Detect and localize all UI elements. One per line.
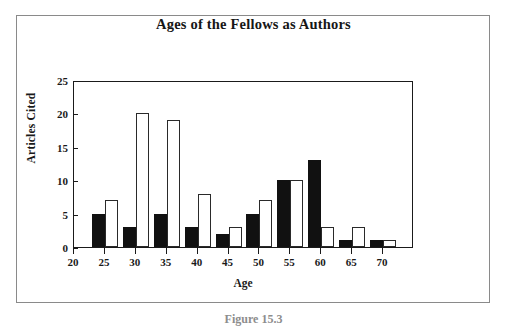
x-tick-label: 55 (284, 256, 295, 268)
y-tick-mark (73, 148, 78, 149)
x-tick-label: 20 (68, 256, 79, 268)
bar-hollow (198, 194, 211, 247)
x-tick-mark (73, 248, 74, 254)
bar-filled (370, 240, 383, 247)
bar-filled (154, 214, 167, 247)
y-tick-label: 10 (57, 175, 68, 187)
x-tick-label: 45 (222, 256, 233, 268)
bar-hollow (167, 120, 180, 247)
x-axis-title: Age (73, 277, 413, 289)
bar-hollow (105, 200, 118, 247)
y-axis-tick-labels: 0510152025 (40, 81, 68, 248)
y-tick-label: 5 (63, 209, 69, 221)
x-tick-label: 25 (98, 256, 109, 268)
y-axis-title: Articles Cited (25, 73, 37, 183)
x-tick-mark (197, 248, 198, 254)
x-tick-label: 65 (346, 256, 357, 268)
x-tick-mark (104, 248, 105, 254)
x-tick-mark (258, 248, 259, 254)
plot-area (73, 81, 413, 248)
bar-filled (308, 160, 321, 247)
y-tick-label: 20 (57, 108, 68, 120)
x-tick-label: 35 (160, 256, 171, 268)
x-tick-mark (166, 248, 167, 254)
x-tick-label: 40 (191, 256, 202, 268)
bar-hollow (352, 227, 365, 247)
y-tick-label: 15 (57, 142, 68, 154)
x-tick-label: 60 (315, 256, 326, 268)
bar-hollow (229, 227, 242, 247)
bar-filled (277, 180, 290, 247)
bar-filled (339, 240, 352, 247)
x-tick-label: 30 (129, 256, 140, 268)
bar-hollow (290, 180, 303, 247)
chart-title: Ages of the Fellows as Authors (0, 16, 507, 33)
y-tick-mark (73, 181, 78, 182)
bar-hollow (259, 200, 272, 247)
x-tick-mark (228, 248, 229, 254)
bar-hollow (321, 227, 334, 247)
figure-caption: Figure 15.3 (0, 312, 507, 330)
bar-hollow (383, 240, 396, 247)
y-tick-mark (73, 215, 78, 216)
bar-filled (216, 234, 229, 247)
x-tick-mark (135, 248, 136, 254)
x-tick-mark (351, 248, 352, 254)
x-tick-mark (289, 248, 290, 254)
y-tick-label: 0 (63, 242, 69, 254)
bar-filled (185, 227, 198, 247)
bar-hollow (136, 113, 149, 247)
y-tick-mark (73, 114, 78, 115)
y-tick-mark (73, 81, 78, 82)
bars-layer (74, 82, 412, 247)
y-tick-label: 25 (57, 75, 68, 87)
bar-filled (123, 227, 136, 247)
x-tick-mark (382, 248, 383, 254)
x-tick-label: 50 (253, 256, 264, 268)
bar-filled (92, 214, 105, 247)
x-tick-label: 70 (377, 256, 388, 268)
bar-filled (246, 214, 259, 247)
x-tick-mark (320, 248, 321, 254)
